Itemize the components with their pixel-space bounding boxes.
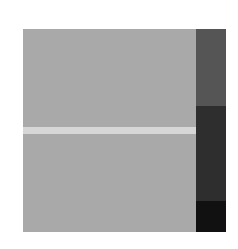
column-segment-middle [196, 106, 226, 201]
column-segment-top [196, 29, 226, 106]
column-segment-bottom [196, 201, 226, 232]
light-stripe [23, 127, 196, 134]
gray-panel [23, 29, 196, 232]
dark-column [196, 29, 226, 232]
canvas [0, 0, 238, 249]
